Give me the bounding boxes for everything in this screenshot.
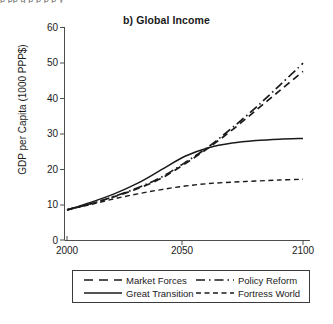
legend-label-market-forces: Market Forces	[126, 275, 187, 286]
series-line-policy-reform	[67, 63, 303, 210]
x-axis	[65, 236, 311, 245]
legend-label-fortress-world: Fortress World	[238, 288, 300, 299]
series-line-great-transition	[67, 138, 303, 209]
legend-label-great-transition: Great Transition	[126, 288, 194, 299]
figure-panel: p pp g p p p p y b) Global Income GDP pe…	[0, 0, 333, 324]
series-line-market-forces	[67, 71, 303, 209]
y-axis	[60, 27, 65, 240]
series-line-fortress-world	[67, 179, 303, 210]
legend-label-policy-reform: Policy Reform	[238, 275, 297, 286]
